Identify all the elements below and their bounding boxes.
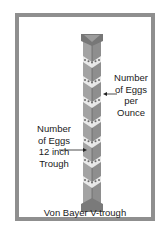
diagram-caption: Von Bayer V-trough: [19, 207, 151, 218]
diagram-frame: Number of Eggs per Ounce Number of Eggs …: [15, 13, 155, 221]
arrows: [19, 17, 151, 217]
arrow-left-label: [59, 148, 87, 152]
arrow-right-label: [103, 92, 117, 96]
